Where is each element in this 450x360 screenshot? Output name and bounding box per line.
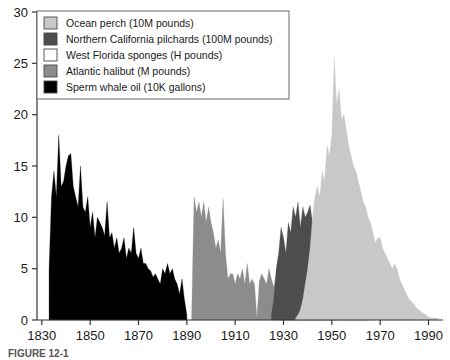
- x-tick-label: 1890: [172, 328, 201, 343]
- x-tick-label: 1830: [27, 328, 56, 343]
- legend-label-sponges: West Florida sponges (H pounds): [66, 49, 222, 61]
- figure-caption: FIGURE 12-1: [8, 348, 69, 359]
- legend-swatch-halibut: [44, 65, 57, 77]
- y-tick-label: 30: [14, 5, 28, 20]
- x-tick-label: 1990: [414, 328, 443, 343]
- legend-label-ocean_perch: Ocean perch (10M pounds): [66, 17, 194, 29]
- x-tick-label: 1950: [317, 328, 346, 343]
- legend-label-pilchards: Northern California pilchards (100M poun…: [66, 33, 273, 45]
- fisheries-collapse-chart: 0510152025301830185018701890191019301950…: [0, 0, 450, 360]
- legend-swatch-ocean_perch: [44, 17, 57, 29]
- x-tick-label: 1910: [221, 328, 250, 343]
- series-area: [296, 58, 439, 320]
- y-tick-label: 15: [14, 159, 28, 174]
- x-tick-label: 1870: [124, 328, 153, 343]
- legend-swatch-pilchards: [44, 33, 57, 45]
- legend-label-halibut: Atlantic halibut (M pounds): [66, 65, 190, 77]
- y-tick-label: 20: [14, 107, 28, 122]
- legend-swatch-sponges: [44, 49, 57, 61]
- series-area: [49, 135, 187, 320]
- x-tick-label: 1930: [269, 328, 298, 343]
- legend-swatch-sperm_whale_oil: [44, 81, 57, 93]
- legend-group: Ocean perch (10M pounds)Northern Califor…: [37, 11, 289, 99]
- y-tick-label: 10: [14, 210, 28, 225]
- figure-caption-group: FIGURE 12-1: [8, 348, 69, 359]
- chart-canvas: 0510152025301830185018701890191019301950…: [0, 0, 450, 360]
- legend-label-sperm_whale_oil: Sperm whale oil (10K gallons): [66, 81, 205, 93]
- y-tick-label: 5: [21, 261, 28, 276]
- y-tick-label: 25: [14, 56, 28, 71]
- y-tick-label: 0: [21, 313, 28, 328]
- x-tick-label: 1970: [366, 328, 395, 343]
- x-tick-label: 1850: [76, 328, 105, 343]
